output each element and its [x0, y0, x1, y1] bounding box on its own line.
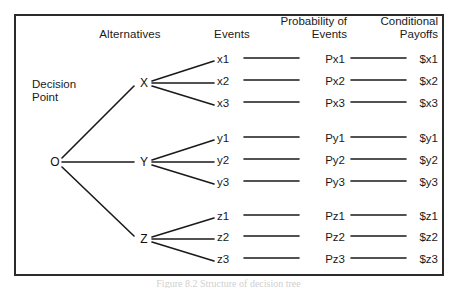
node-alternative-x[interactable]: X — [136, 76, 152, 90]
event-label: z2 — [217, 231, 229, 244]
figure-caption: Figure 8.2 Structure of decision tree — [0, 278, 457, 288]
payoff-label: $y2 — [382, 154, 438, 167]
payoff-label: $y3 — [382, 176, 438, 189]
event-label: x2 — [217, 75, 229, 88]
event-label: y2 — [217, 154, 229, 167]
probability-label: Px3 — [290, 97, 345, 110]
header-probability-of-events: Probability of Events — [255, 15, 347, 41]
header-payoffs-line1: Conditional — [355, 15, 438, 28]
probability-label: Pz1 — [290, 210, 345, 223]
probability-label: Pz2 — [290, 231, 345, 244]
payoff-label: $z1 — [382, 210, 438, 223]
probability-label: Py2 — [290, 154, 345, 167]
header-probability-line1: Probability of — [255, 15, 347, 28]
payoff-label: $y1 — [382, 132, 438, 145]
payoff-label: $x1 — [382, 53, 438, 66]
event-label: x3 — [217, 97, 229, 110]
payoff-label: $z2 — [382, 231, 438, 244]
probability-label: Py3 — [290, 176, 345, 189]
decision-point-label: Decision Point — [32, 78, 102, 104]
event-label: x1 — [217, 53, 229, 66]
diagram-canvas: Alternatives Events Probability of Event… — [0, 0, 457, 288]
node-decision-point[interactable]: O — [47, 155, 63, 169]
event-label: z1 — [217, 210, 229, 223]
payoff-label: $x2 — [382, 75, 438, 88]
event-label: y1 — [217, 132, 229, 145]
probability-label: Px2 — [290, 75, 345, 88]
decision-point-line1: Decision — [32, 78, 102, 91]
node-alternative-z[interactable]: Z — [136, 232, 152, 246]
header-payoffs-line2: Payoffs — [355, 28, 438, 41]
header-alternatives: Alternatives — [90, 28, 170, 41]
event-label: y3 — [217, 176, 229, 189]
header-conditional-payoffs: Conditional Payoffs — [355, 15, 438, 41]
probability-label: Py1 — [290, 132, 345, 145]
probability-label: Px1 — [290, 53, 345, 66]
header-probability-line2: Events — [255, 28, 347, 41]
node-alternative-y[interactable]: Y — [136, 155, 152, 169]
payoff-label: $x3 — [382, 97, 438, 110]
decision-point-line2: Point — [32, 91, 102, 104]
event-label: z3 — [217, 253, 229, 266]
payoff-label: $z3 — [382, 253, 438, 266]
probability-label: Pz3 — [290, 253, 345, 266]
header-events: Events — [213, 28, 251, 41]
